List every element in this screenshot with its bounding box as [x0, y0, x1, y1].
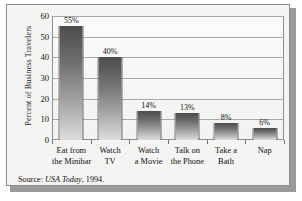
x-category-label: WatchTV — [91, 145, 130, 167]
bar-slot: 6% — [245, 16, 284, 140]
y-tick-label-20: 20 — [25, 94, 49, 104]
source-prefix: Source: — [18, 175, 45, 184]
x-category-label: Talk onthe Phone — [168, 145, 207, 167]
y-tick-label-60: 60 — [25, 11, 49, 21]
x-category-label-line: a Movie — [129, 156, 168, 167]
bar[interactable] — [97, 57, 122, 140]
bar[interactable] — [59, 26, 84, 140]
x-tick — [284, 140, 285, 144]
x-category-label-line: Bath — [207, 156, 246, 167]
bar-series: 55%40%14%13%8%6% — [52, 16, 284, 140]
x-category-label-line: Watch — [91, 145, 130, 156]
bar-value-label: 14% — [141, 101, 156, 110]
x-category-label-line: Eat from — [52, 145, 91, 156]
figure-frame: Percent of Business Travelers 0102030405… — [6, 4, 290, 186]
y-tick-label-40: 40 — [25, 52, 49, 62]
y-tick-label-10: 10 — [25, 114, 49, 124]
x-category-label-line: TV — [91, 156, 130, 167]
y-tick-label-50: 50 — [25, 32, 49, 42]
x-category-label: Take aBath — [207, 145, 246, 167]
y-tick-label-0: 0 — [25, 135, 49, 145]
bar-value-label: 40% — [103, 47, 118, 56]
x-category-label: Nap — [245, 145, 284, 156]
y-tick-label-30: 30 — [25, 73, 49, 83]
x-category-label-line: Nap — [245, 145, 284, 156]
bar-slot: 14% — [129, 16, 168, 140]
x-category-label-line: Take a — [207, 145, 246, 156]
bar[interactable] — [175, 113, 200, 140]
source-suffix: , 1994. — [82, 175, 105, 184]
x-category-label-line: Talk on — [168, 145, 207, 156]
x-category-label: Eat fromthe Minibar — [52, 145, 91, 167]
bar-value-label: 8% — [221, 113, 232, 122]
x-tick — [129, 140, 130, 144]
x-tick — [168, 140, 169, 144]
bar-slot: 8% — [207, 16, 246, 140]
x-tick — [91, 140, 92, 144]
bar-value-label: 6% — [259, 118, 270, 127]
x-category-label-line: the Minibar — [52, 156, 91, 167]
bar-value-label: 55% — [64, 16, 79, 25]
x-category-label-line: the Phone — [168, 156, 207, 167]
bar[interactable] — [213, 123, 238, 140]
x-category-label-line: Watch — [129, 145, 168, 156]
x-category-label: Watcha Movie — [129, 145, 168, 167]
bar[interactable] — [136, 111, 161, 140]
source-note: Source: USA Today, 1994. — [18, 175, 104, 184]
x-axis-category-labels: Eat fromthe MinibarWatchTVWatcha MovieTa… — [52, 145, 284, 171]
bar-value-label: 13% — [180, 103, 195, 112]
x-tick — [207, 140, 208, 144]
bar-slot: 55% — [52, 16, 91, 140]
source-publication: USA Today — [45, 175, 82, 184]
chart-figure: Percent of Business Travelers 0102030405… — [0, 0, 302, 201]
bar-slot: 13% — [168, 16, 207, 140]
bar-slot: 40% — [91, 16, 130, 140]
x-tick — [52, 140, 53, 144]
x-tick — [245, 140, 246, 144]
bar[interactable] — [252, 128, 277, 140]
